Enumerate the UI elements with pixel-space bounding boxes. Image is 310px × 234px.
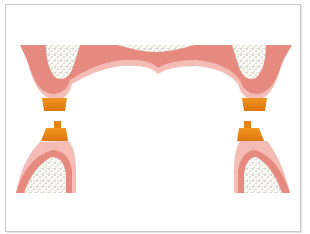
attachment-lower-right — [237, 121, 264, 141]
upper-arch — [20, 45, 292, 100]
attachment-upper-left — [42, 98, 67, 111]
lower-left-ridge — [16, 141, 76, 193]
dental-diagram — [0, 0, 310, 234]
attachment-upper-right — [242, 98, 267, 111]
attachment-lower-left — [41, 121, 68, 141]
lower-right-ridge — [234, 141, 290, 193]
